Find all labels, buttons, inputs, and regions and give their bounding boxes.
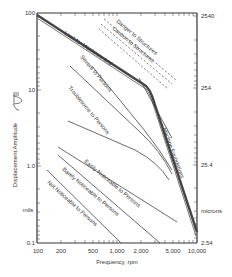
y-left-unit: mils xyxy=(23,207,34,213)
x-tick-labels: 100 200 500 1,000 2,000 5,000 10,000 xyxy=(33,248,207,254)
x-tick-label: 10,000 xyxy=(188,248,207,254)
y-right-tick-label: 2.54 xyxy=(201,240,213,246)
label-foundations: – Machine Foundations xyxy=(160,122,186,179)
y-right-tick-label: 2540 xyxy=(201,13,215,19)
curve-labels: Danger to Structures Caution to Structur… xyxy=(46,18,185,227)
severe-to-persons-line xyxy=(70,66,172,174)
y-tick-label: 100 xyxy=(25,10,36,16)
vibration-chart: 100 200 500 1,000 2,000 5,000 10,000 Fre… xyxy=(0,0,232,277)
y-tick-label: 10 xyxy=(28,87,35,93)
y-tick-label: 1.0 xyxy=(27,163,36,169)
y-right-unit: microns xyxy=(201,208,222,214)
troublesome-to-persons-line xyxy=(68,121,169,180)
y-right-tick-label: 254 xyxy=(201,85,212,91)
x-tick-label: 200 xyxy=(56,248,67,254)
x-tick-label: 5,000 xyxy=(165,248,181,254)
x-axis-title: Frequency, rpm xyxy=(96,259,138,265)
limit-for-machines-line xyxy=(37,15,197,232)
y-tick-label: 0.1 xyxy=(27,240,36,246)
displacement-amplitude-icon xyxy=(13,93,22,110)
x-tick-label: 500 xyxy=(88,248,99,254)
x-tick-label: 2,000 xyxy=(133,248,149,254)
x-tick-label: 100 xyxy=(33,248,44,254)
x-tick-label: 1,000 xyxy=(109,248,125,254)
label-easily: Easily Noticeable to Persons xyxy=(83,158,142,208)
y-axis-title: Displacement Amplitude xyxy=(12,122,18,187)
limit-for-machines-line-inner xyxy=(37,18,196,236)
label-troublesome: Troublesome to Persons xyxy=(67,85,111,136)
y-right-tick-label: 25.4 xyxy=(201,162,213,168)
label-barely: Barely Noticeable to Persons xyxy=(61,166,120,217)
